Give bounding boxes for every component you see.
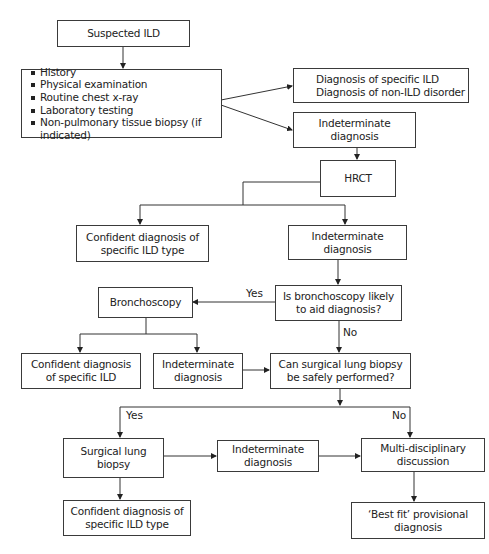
node-specific-diagnosis: Diagnosis of specific ILD Diagnosis of n… — [293, 68, 469, 103]
node-indeterminate-2: Indeterminate diagnosis — [288, 225, 407, 260]
node-text: HRCT — [344, 172, 372, 185]
node-text: Confident diagnosis of — [86, 231, 199, 244]
node-text: Diagnosis of non-ILD disorder — [316, 86, 465, 99]
node-confident-2: Confident diagnosis of specific ILD — [21, 353, 141, 389]
node-text: of specific ILD — [46, 371, 117, 384]
workup-list: History Physical examination Routine che… — [30, 66, 221, 142]
node-bronchoscopy: Bronchoscopy — [98, 287, 193, 318]
node-text: diagnosis — [331, 130, 379, 143]
node-text: Confident diagnosis — [31, 358, 131, 371]
node-suspected-ild: Suspected ILD — [57, 20, 190, 47]
node-text: Suspected ILD — [87, 27, 160, 40]
edge-label-no: No — [392, 409, 406, 421]
node-text: diagnosis — [324, 243, 372, 256]
node-indeterminate-4: Indeterminate diagnosis — [217, 440, 319, 472]
node-indeterminate-1: Indeterminate diagnosis — [293, 112, 416, 148]
node-text: Surgical lung — [81, 445, 147, 458]
workup-item: Laboratory testing — [30, 104, 221, 117]
node-text: biopsy — [97, 458, 130, 471]
node-text: Diagnosis of specific ILD — [316, 73, 439, 86]
node-text: Indeterminate — [312, 230, 384, 243]
node-surgical-biopsy: Surgical lung biopsy — [63, 438, 164, 478]
node-text: diagnosis — [244, 456, 292, 469]
node-question-bronchoscopy: Is bronchoscopy likely to aid diagnosis? — [275, 285, 402, 321]
node-text: discussion — [397, 455, 449, 468]
workup-item: History — [30, 66, 221, 79]
node-indeterminate-3: Indeterminate diagnosis — [153, 353, 243, 389]
node-text: diagnosis — [394, 521, 442, 534]
workup-item: Physical examination — [30, 78, 221, 91]
edge-label-yes: Yes — [246, 287, 263, 299]
edge-label-no: No — [343, 326, 357, 338]
node-text: Indeterminate — [319, 117, 391, 130]
node-text: Indeterminate — [162, 358, 234, 371]
workup-item: Routine chest x-ray — [30, 91, 221, 104]
node-confident-3: Confident diagnosis of specific ILD type — [63, 500, 191, 536]
node-text: Indeterminate — [232, 443, 304, 456]
node-text: specific ILD type — [101, 244, 184, 257]
node-confident-1: Confident diagnosis of specific ILD type — [76, 225, 209, 262]
node-text: Multi-disciplinary — [380, 442, 466, 455]
node-multidisciplinary: Multi-disciplinary discussion — [361, 438, 485, 472]
node-text: Can surgical lung biopsy — [279, 358, 403, 371]
node-text: to aid diagnosis? — [296, 303, 381, 316]
node-text: Bronchoscopy — [110, 296, 181, 309]
edge-label-yes: Yes — [126, 409, 143, 421]
node-text: be safely performed? — [287, 371, 395, 384]
node-text: Is bronchoscopy likely — [283, 290, 394, 303]
node-initial-workup: History Physical examination Routine che… — [21, 69, 222, 138]
node-question-surgical: Can surgical lung biopsy be safely perfo… — [270, 353, 411, 389]
node-best-fit: ‘Best fit’ provisional diagnosis — [351, 502, 485, 539]
workup-item: Non-pulmonary tissue biopsy (if indicate… — [30, 116, 221, 141]
node-text: specific ILD type — [85, 518, 168, 531]
node-text: Confident diagnosis of — [71, 505, 184, 518]
node-hrct: HRCT — [320, 160, 396, 197]
node-text: ‘Best fit’ provisional — [368, 508, 468, 521]
node-text: diagnosis — [174, 371, 222, 384]
